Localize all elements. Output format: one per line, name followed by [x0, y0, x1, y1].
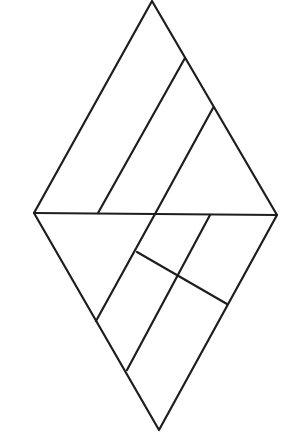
upper-parallel-2-line [155, 108, 213, 214]
lower-parallel-1-line [96, 214, 155, 321]
diagram-canvas [0, 0, 288, 446]
rhombus-diagram [0, 0, 288, 446]
lower-crossbar-line [137, 252, 227, 304]
interior-segments [34, 58, 277, 370]
upper-parallel-1-line [98, 58, 185, 213]
lower-parallel-2-line [127, 215, 210, 370]
